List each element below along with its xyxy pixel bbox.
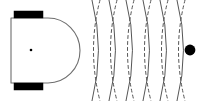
robot-body-outline [11,18,80,83]
figure-canvas: Mobile robot emitting wave fronts toward… [0,0,207,101]
target-object-dot [185,45,196,56]
front-right-wheel [14,83,43,90]
robot-center-dot [30,49,33,52]
diagram-svg: Mobile robot emitting wave fronts toward… [0,0,207,101]
front-left-wheel [14,11,43,18]
